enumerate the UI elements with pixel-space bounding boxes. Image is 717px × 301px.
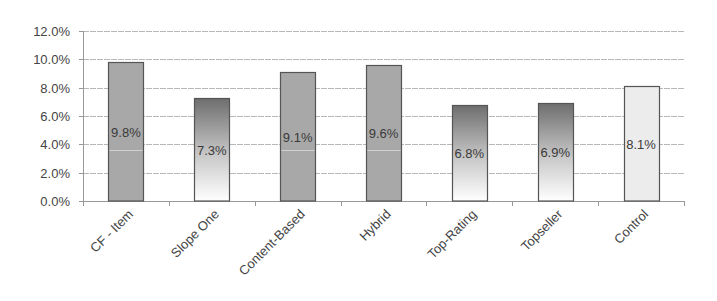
bar-control: 8.1% [625, 87, 660, 202]
chart-canvas: 0.0%2.0%4.0%6.0%8.0%10.0%12.0% 9.8%7.3%9… [0, 0, 717, 301]
y-tick-label: 8.0% [40, 81, 70, 96]
data-label: 9.1% [283, 130, 313, 145]
x-axis-labels: CF - ItemSlope OneContent-BasedHybridTop… [87, 206, 651, 278]
bar-hybrid: 9.6% [367, 66, 402, 202]
y-tick-label: 4.0% [40, 137, 70, 152]
bar-cf-item: 9.8% [109, 63, 144, 202]
data-label: 7.3% [197, 143, 227, 158]
x-tick-label: Control [611, 206, 651, 246]
y-axis: 0.0%2.0%4.0%6.0%8.0%10.0%12.0% [33, 24, 83, 209]
bar-chart: 0.0%2.0%4.0%6.0%8.0%10.0%12.0% 9.8%7.3%9… [0, 0, 717, 301]
data-label: 9.6% [369, 126, 399, 141]
x-tick-label: Slope One [168, 207, 222, 261]
y-tick-label: 2.0% [40, 166, 70, 181]
y-tick-label: 0.0% [40, 194, 70, 209]
data-label: 6.9% [540, 145, 570, 160]
x-tick-label: Hybrid [356, 207, 393, 244]
bar-content-based: 9.1% [281, 73, 316, 202]
bars: 9.8%7.3%9.1%9.6%6.8%6.9%8.1% [109, 63, 660, 202]
x-tick-label: Top-Rating [424, 207, 479, 262]
y-tick-label: 6.0% [40, 109, 70, 124]
y-tick-label: 10.0% [33, 52, 70, 67]
data-label: 9.8% [111, 125, 141, 140]
data-label: 6.8% [455, 146, 485, 161]
bar-top-rating: 6.8% [453, 106, 488, 202]
y-tick-label: 12.0% [33, 24, 70, 39]
x-tick-label: Topseller [518, 206, 566, 254]
bar-topseller: 6.9% [539, 104, 574, 202]
x-axis [83, 201, 685, 206]
x-tick-label: CF - Item [87, 207, 136, 256]
bar-slope-one: 7.3% [195, 99, 230, 202]
x-tick-label: Content-Based [236, 207, 308, 279]
data-label: 8.1% [626, 137, 656, 152]
